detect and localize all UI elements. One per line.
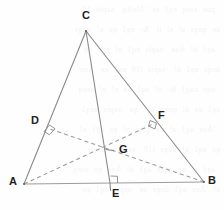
tick-at-G [106,150,115,151]
segment-AF [24,124,153,184]
label-D: D [31,115,39,126]
label-E: E [112,188,119,199]
vertex-point-B [203,181,205,183]
segment-AB [24,182,204,184]
geometry-diagram [0,0,224,210]
segment-AC [24,31,86,184]
vertex-point-A [23,183,25,185]
label-B: B [208,175,216,186]
right-angle-at-E [111,176,118,183]
segment-CE [86,31,110,183]
geometry-figure: pue aseq eq1 se 'ÁlaAŋ ·sapṫs 10ue qoŋs … [0,0,224,210]
vertex-point-C [85,30,87,32]
label-G: G [119,144,128,155]
segment-CB [86,31,204,182]
label-C: C [82,10,90,21]
right-angle-at-D [44,125,55,135]
label-A: A [9,176,17,187]
right-angle-at-F [149,121,157,130]
ce-extension [110,183,111,191]
segment-BD [47,128,204,182]
label-F: F [158,110,165,121]
